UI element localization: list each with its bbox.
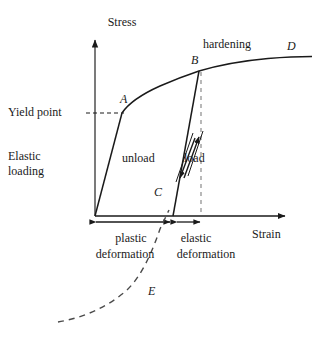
point-label-d: D bbox=[287, 40, 296, 53]
y-axis-label: Stress bbox=[108, 16, 137, 29]
point-label-a: A bbox=[120, 93, 127, 106]
plastic-deformation-label-line2: deformation bbox=[96, 248, 155, 261]
hardening-curve bbox=[122, 57, 312, 114]
plastic-deformation-label-line1: plastic bbox=[115, 232, 146, 245]
hardening-label: hardening bbox=[203, 38, 251, 51]
stress-strain-diagram: Stress Strain A B C D E Yield point Elas… bbox=[0, 0, 327, 340]
elastic-deformation-label-line1: elastic bbox=[181, 232, 212, 245]
yield-point-label: Yield point bbox=[8, 106, 62, 119]
elastic-loading-label-line1: Elastic bbox=[8, 150, 41, 163]
x-axis-label: Strain bbox=[252, 228, 281, 241]
elastic-deformation-label-line2: deformation bbox=[177, 248, 236, 261]
point-label-c: C bbox=[154, 186, 162, 199]
permanent-set-dashed-curve bbox=[58, 210, 169, 322]
diagram-canvas bbox=[0, 0, 327, 340]
unload-load-line bbox=[173, 71, 199, 216]
point-label-b: B bbox=[191, 54, 198, 67]
unload-label: unload bbox=[122, 152, 155, 165]
elastic-loading-line bbox=[95, 113, 122, 216]
point-label-e: E bbox=[148, 285, 155, 298]
elastic-loading-label-line2: loading bbox=[8, 165, 44, 178]
load-label: load bbox=[184, 152, 205, 165]
